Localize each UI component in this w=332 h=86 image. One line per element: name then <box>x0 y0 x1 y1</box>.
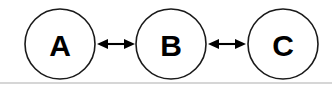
edge-b-c-arrowhead-left <box>208 39 219 49</box>
node-b[interactable]: B <box>136 9 206 79</box>
edge-b-c-arrowhead-right <box>235 39 246 49</box>
node-c[interactable]: C <box>248 9 318 79</box>
edge-b-c[interactable] <box>208 39 246 49</box>
node-a-label: A <box>49 29 71 62</box>
edge-a-b-arrowhead-left <box>97 39 108 49</box>
node-link-diagram: A B C <box>0 0 332 86</box>
node-c-label: C <box>272 29 294 62</box>
node-b-label: B <box>160 29 182 62</box>
node-a[interactable]: A <box>25 9 95 79</box>
diagram-canvas: A B C <box>0 0 332 86</box>
edge-a-b-arrowhead-right <box>124 39 135 49</box>
edge-a-b[interactable] <box>97 39 135 49</box>
